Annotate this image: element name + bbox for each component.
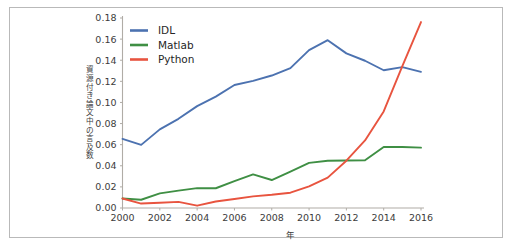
x-tick-label: 2014 (372, 212, 396, 223)
y-axis-title-char: 論 (86, 99, 94, 109)
figure: 0.000.020.040.060.080.100.120.140.160.18… (0, 0, 512, 246)
legend-label-idl: IDL (158, 24, 175, 36)
x-tick-label: 2002 (148, 212, 172, 223)
y-axis-title-char: 付 (86, 82, 94, 92)
series-line-matlab (123, 147, 422, 200)
x-tick-label: 2012 (334, 212, 358, 223)
x-tick-label: 2006 (222, 212, 246, 223)
chart-legend: IDLMatlabPython (130, 24, 194, 65)
y-tick-label: 0.08 (95, 118, 116, 129)
x-tick-label: 2016 (409, 212, 433, 223)
x-axis-tick-labels: 200020022004200620082010201220142016 (110, 212, 433, 223)
y-tick-label: 0.04 (95, 160, 116, 171)
y-axis-title-char: 文 (86, 107, 94, 117)
x-tick-label: 2010 (297, 212, 321, 223)
y-tick-label: 0.14 (95, 55, 116, 66)
x-tick-label: 2000 (110, 212, 134, 223)
x-axis-title: 年 (286, 230, 295, 240)
y-tick-label: 0.06 (95, 139, 116, 150)
y-axis-title-char: 数 (86, 150, 94, 160)
y-tick-label: 0.12 (95, 76, 116, 87)
y-tick-label: 0.16 (95, 34, 116, 45)
y-tick-label: 0.02 (95, 181, 116, 192)
x-tick-label: 2004 (185, 212, 209, 223)
y-axis-title-char: 中 (86, 116, 94, 126)
y-tick-label: 0.18 (95, 12, 116, 23)
y-axis-tick-labels: 0.000.020.040.060.080.100.120.140.160.18 (95, 12, 116, 213)
legend-label-matlab: Matlab (158, 39, 194, 51)
y-axis-title-char: 言 (86, 133, 94, 143)
legend-label-python: Python (158, 53, 194, 65)
x-tick-label: 2008 (260, 212, 284, 223)
plot-area-wrapper: 0.000.020.040.060.080.100.120.140.160.18… (0, 0, 512, 246)
y-axis-title-char: 資 (86, 64, 94, 74)
y-axis-title: 資源付き論文中の言及数 (86, 64, 94, 160)
line-chart: 0.000.020.040.060.080.100.120.140.160.18… (0, 0, 512, 246)
y-tick-label: 0.10 (95, 97, 116, 108)
